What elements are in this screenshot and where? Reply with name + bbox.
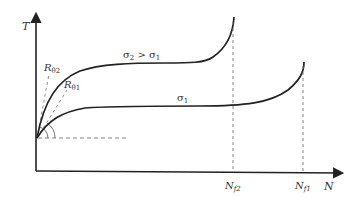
label-r-theta2: Rθ2: [43, 62, 60, 75]
fatigue-temperature-diagram: T N σ2 > σ1 σ1 Rθ2 Rθ1 Nf2 Nf1: [0, 0, 359, 198]
label-sigma2-gt-sigma1: σ2 > σ1: [123, 49, 160, 62]
x-axis-label: N: [323, 180, 334, 193]
curve-sigma2: [37, 17, 234, 138]
curve-sigma1: [37, 62, 304, 138]
x-axis: [36, 171, 342, 173]
label-nf2: Nf2: [224, 180, 241, 193]
label-sigma1: σ1: [177, 92, 188, 105]
y-axis-label: T: [22, 20, 31, 33]
label-nf1: Nf1: [294, 180, 311, 193]
label-r-theta1: Rθ1: [63, 79, 80, 92]
